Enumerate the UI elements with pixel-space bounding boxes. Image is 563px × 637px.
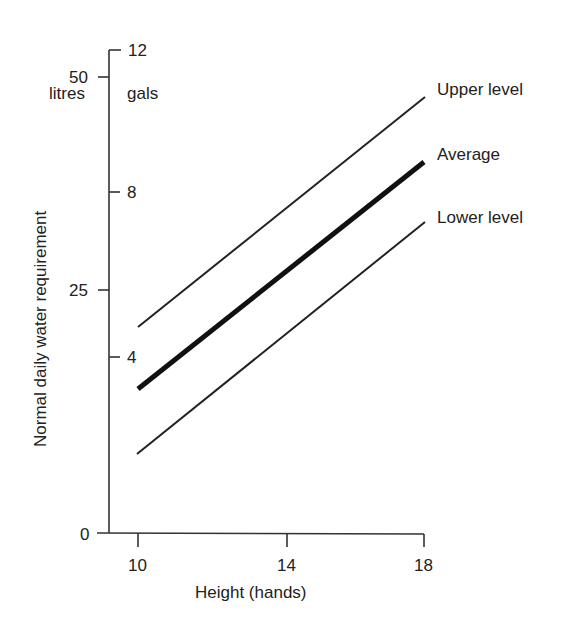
x-tick-label-18: 18	[414, 557, 433, 574]
series-lower-level	[137, 222, 425, 454]
y-unit-litres: litres	[49, 85, 85, 102]
x-axis-line	[97, 533, 424, 534]
y-unit-gals: gals	[127, 85, 158, 102]
gals-tick-label-12: 12	[128, 42, 147, 59]
series-average	[138, 162, 424, 389]
y-tick-label-25: 25	[69, 282, 88, 299]
gals-tick-label-4: 4	[127, 349, 136, 366]
series-label-lower-level: Lower level	[437, 209, 523, 226]
y-tick-label-0: 0	[80, 526, 89, 543]
x-axis-title: Height (hands)	[195, 584, 307, 601]
y-axis-title: Normal daily water requirement	[31, 211, 51, 447]
gals-tick-label-8: 8	[127, 184, 136, 201]
x-tick-label-14: 14	[277, 557, 296, 574]
series-upper-level	[138, 97, 425, 327]
series-label-average: Average	[437, 146, 500, 163]
y-tick-label-50: 50	[69, 69, 88, 86]
series-label-upper-level: Upper level	[437, 81, 523, 98]
x-tick-label-10: 10	[128, 557, 147, 574]
